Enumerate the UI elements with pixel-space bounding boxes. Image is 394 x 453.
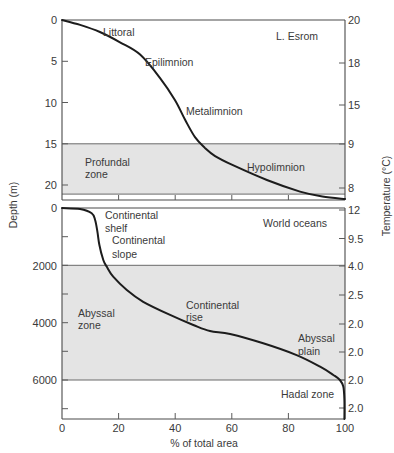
upper-panel: 0 5 10 15 20 20 18 15 9 8 Littoral Epili…	[45, 14, 361, 200]
y2-tick-label: 9.5	[348, 233, 363, 245]
annotation-abyssal-zone-2: zone	[78, 319, 101, 331]
y2-tick-label: 2.0	[348, 402, 363, 414]
annotation-continental-slope-2: slope	[112, 248, 137, 260]
x-tick-label: 80	[282, 422, 294, 434]
y-tick-label: 0	[51, 202, 57, 214]
y-tick-label: 6000	[33, 374, 57, 386]
y-tick-label: 20	[45, 179, 57, 191]
lower-panel: 0 2000 4000 6000 12 9.5 4.0 2.5 2.0 2.0 …	[33, 202, 364, 419]
abyssal-zone-band	[62, 265, 345, 380]
y2-tick-label: 15	[348, 99, 360, 111]
y-tick-label: 0	[51, 14, 57, 26]
annotation-profundal: Profundal	[85, 156, 130, 168]
y2-tick-label: 4.0	[348, 260, 363, 272]
lower-bottom-ticks	[119, 413, 289, 419]
annotation-continental-slope: Continental	[112, 234, 165, 246]
y-tick-label: 10	[45, 97, 57, 109]
annotation-epilimnion: Epilimnion	[145, 56, 194, 68]
y2-tick-label: 2.0	[348, 374, 363, 386]
lower-temperature-tick-labels: 12 9.5 4.0 2.5 2.0 2.0 2.0 2.0	[348, 204, 363, 414]
upper-temperature-tick-labels: 20 18 15 9 8	[348, 14, 360, 194]
panel-title-oceans: World oceans	[263, 217, 327, 229]
x-axis-title: % of total area	[170, 437, 238, 449]
annotation-continental-rise-2: rise	[186, 311, 203, 323]
annotation-abyssal-plain: Abyssal	[298, 332, 335, 344]
annotation-hadal-zone: Hadal zone	[281, 388, 334, 400]
y2-axis-title: Temperature (°C)	[380, 156, 392, 237]
x-tick-label: 60	[226, 422, 238, 434]
y2-tick-label: 2.0	[348, 346, 363, 358]
annotation-littoral: Littoral	[103, 26, 135, 38]
annotation-continental-shelf: Continental	[105, 209, 158, 221]
y2-tick-label: 8	[348, 182, 354, 194]
y-tick-label: 5	[51, 55, 57, 67]
y2-tick-label: 20	[348, 14, 360, 26]
y2-tick-label: 18	[348, 57, 360, 69]
upper-bottom-ticks	[119, 195, 289, 200]
lower-depth-tick-labels: 0 2000 4000 6000	[33, 202, 57, 386]
hypsographic-figure: 0 5 10 15 20 20 18 15 9 8 Littoral Epili…	[0, 0, 394, 453]
x-tick-label: 20	[112, 422, 124, 434]
y-tick-label: 2000	[33, 260, 57, 272]
y-tick-label: 15	[45, 138, 57, 150]
annotation-continental-rise: Continental	[186, 299, 239, 311]
x-tick-labels: 0 20 40 60 80 100	[59, 422, 354, 434]
annotation-hypolimnion: Hypolimnion	[247, 161, 305, 173]
y2-tick-label: 2.5	[348, 289, 363, 301]
annotation-abyssal-zone: Abyssal	[78, 307, 115, 319]
annotation-continental-shelf-2: shelf	[105, 222, 127, 234]
annotation-abyssal-plain-2: plain	[298, 345, 320, 357]
y-tick-label: 4000	[33, 317, 57, 329]
annotation-metalimnion: Metalimnion	[186, 105, 243, 117]
lower-left-ticks	[62, 237, 68, 409]
x-tick-label: 0	[59, 422, 65, 434]
upper-depth-tick-labels: 0 5 10 15 20	[45, 14, 57, 191]
y2-tick-label: 2.0	[348, 318, 363, 330]
y2-tick-label: 9	[348, 138, 354, 150]
panel-title-lake: L. Esrom	[276, 30, 318, 42]
x-tick-label: 100	[336, 422, 354, 434]
y-axis-title: Depth (m)	[7, 182, 19, 229]
y2-tick-label: 12	[348, 204, 360, 216]
x-tick-label: 40	[169, 422, 181, 434]
annotation-profundal-zone: zone	[85, 168, 108, 180]
